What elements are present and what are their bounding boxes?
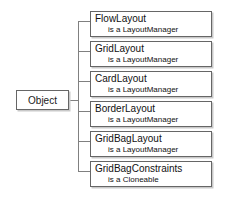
class-node-gridbagconstraints-name: GridBagConstraints — [95, 163, 211, 175]
class-node-cardlayout-relation: is a LayoutManager — [95, 85, 211, 95]
class-node-gridlayout: GridLayout is a LayoutManager — [90, 41, 212, 67]
class-node-borderlayout-name: BorderLayout — [95, 103, 211, 115]
class-node-gridbagconstraints-relation: is a Cloneable — [95, 175, 211, 185]
class-hierarchy-diagram: Object FlowLayout is a LayoutManager Gri… — [0, 0, 229, 203]
class-node-gridlayout-name: GridLayout — [95, 43, 211, 55]
class-node-cardlayout-name: CardLayout — [95, 73, 211, 85]
class-node-borderlayout-relation: is a LayoutManager — [95, 115, 211, 125]
class-node-flowlayout-name: FlowLayout — [95, 13, 211, 25]
class-node-flowlayout: FlowLayout is a LayoutManager — [90, 11, 212, 37]
class-node-gridbagconstraints: GridBagConstraints is a Cloneable — [90, 161, 212, 187]
class-node-gridbaglayout-name: GridBagLayout — [95, 133, 211, 145]
class-node-borderlayout: BorderLayout is a LayoutManager — [90, 101, 212, 127]
class-node-object-label: Object — [28, 95, 57, 106]
class-node-gridbaglayout-relation: is a LayoutManager — [95, 145, 211, 155]
class-node-flowlayout-relation: is a LayoutManager — [95, 25, 211, 35]
class-node-gridlayout-relation: is a LayoutManager — [95, 55, 211, 65]
class-node-gridbaglayout: GridBagLayout is a LayoutManager — [90, 131, 212, 157]
class-node-cardlayout: CardLayout is a LayoutManager — [90, 71, 212, 97]
class-node-object: Object — [16, 90, 69, 110]
